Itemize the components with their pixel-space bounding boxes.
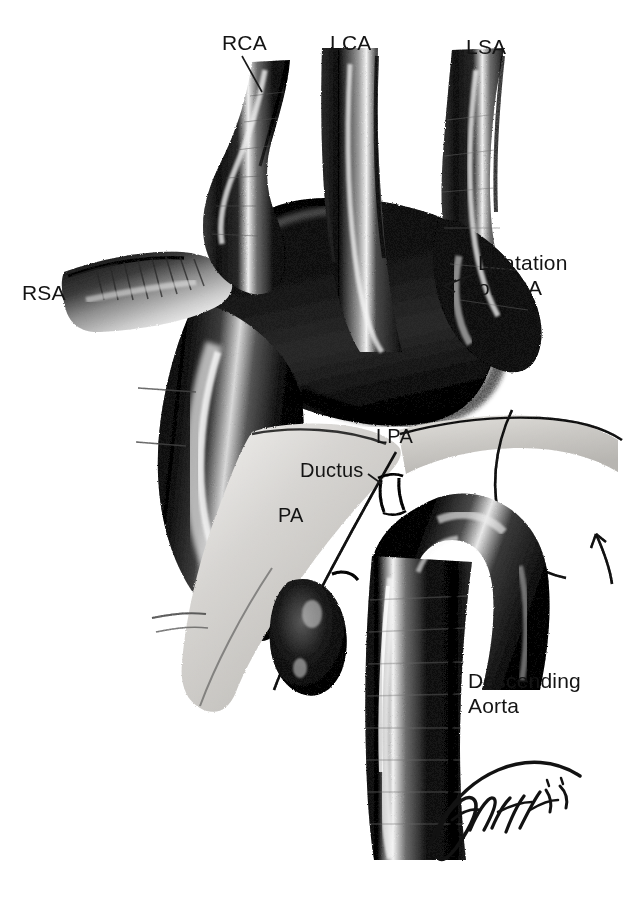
illustration-canvas: RSA RCA LCA LSA Dilatation of LSA LPA Du… — [0, 0, 642, 924]
label-lca: LCA — [330, 30, 371, 55]
label-descending-aorta: Descending Aorta — [468, 668, 581, 718]
label-lpa: LPA — [376, 424, 413, 449]
label-rca: RCA — [222, 30, 267, 55]
label-dilatation-of-lsa: Dilatation of LSA — [478, 250, 568, 300]
label-rsa: RSA — [22, 280, 66, 305]
label-pa: PA — [278, 503, 304, 528]
label-lsa: LSA — [466, 34, 506, 59]
label-ductus: Ductus — [300, 458, 363, 483]
